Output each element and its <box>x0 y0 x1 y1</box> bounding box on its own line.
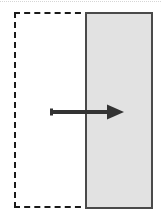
arrow-head <box>107 105 124 120</box>
arrow-svg <box>48 100 128 124</box>
arrow-tail-cap <box>50 109 53 116</box>
translation-arrow-icon <box>48 100 128 124</box>
arrow-shaft <box>50 110 109 114</box>
top-dotted-rule <box>0 1 161 2</box>
diagram-canvas <box>0 0 161 221</box>
